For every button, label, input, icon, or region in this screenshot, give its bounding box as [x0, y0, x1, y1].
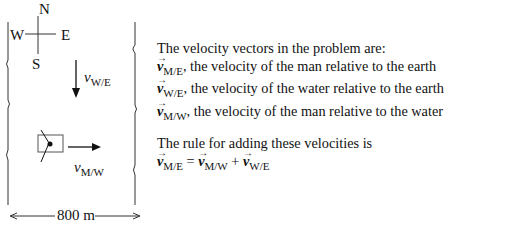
- compass-east-label: E: [61, 28, 70, 43]
- river-width-label: 800 m: [57, 208, 95, 223]
- man-velocity-label: vM/W: [74, 160, 104, 178]
- vector-def-m-w: vM/W, the velocity of the man relative t…: [157, 103, 444, 126]
- vector-def-m-e: vM/E, the velocity of the man relative t…: [157, 58, 444, 81]
- vector-def-w-e: vW/E, the velocity of the water relative…: [157, 80, 444, 103]
- water-velocity-label: vW/E: [84, 70, 111, 88]
- compass-north-label: N: [39, 2, 50, 17]
- compass-south-label: S: [32, 57, 40, 72]
- compass-west-label: W: [10, 28, 24, 43]
- velocity-addition-equation: vM/E = vM/W + vW/E: [157, 153, 444, 176]
- intro-line: The velocity vectors in the problem are:: [157, 40, 444, 58]
- river-diagram: N W E S vW/E vM/W 800 m: [0, 0, 150, 225]
- explanation-text: The velocity vectors in the problem are:…: [157, 40, 444, 175]
